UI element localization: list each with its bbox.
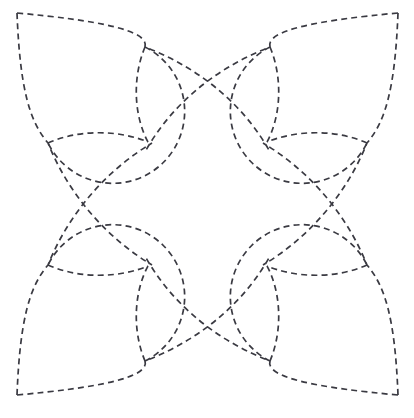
inner-petal-edge-bottom-br: [267, 265, 367, 275]
quadrant-circle-arc-bl: [48, 225, 185, 361]
quadrant-circle-arc-tl: [48, 47, 185, 183]
pattern-canvas: Four-Fold Symmetric Quilting Stencil Pat…: [0, 0, 414, 418]
stencil-drawing: Four-Fold Symmetric Quilting Stencil Pat…: [0, 0, 414, 418]
outer-left-swoop-tl: [17, 13, 152, 265]
inner-petal-edge-right-tr: [267, 47, 279, 142]
quadrant-circle-arc-tr: [230, 47, 367, 183]
inner-petal-edge-right-bl: [136, 266, 148, 361]
stencil-paths-group: [17, 13, 398, 395]
quadrant-circle-arc-br: [230, 225, 367, 361]
inner-petal-edge-right-br: [267, 266, 279, 361]
outer-left-swoop-bl: [17, 143, 152, 395]
inner-petal-edge-bottom-bl: [48, 265, 148, 275]
inner-petal-edge-right-tl: [136, 47, 148, 142]
inner-petal-edge-bottom-tl: [48, 133, 148, 143]
outer-left-swoop-br: [263, 143, 398, 395]
outer-left-swoop-tr: [263, 13, 398, 265]
inner-petal-edge-bottom-tr: [267, 133, 367, 143]
